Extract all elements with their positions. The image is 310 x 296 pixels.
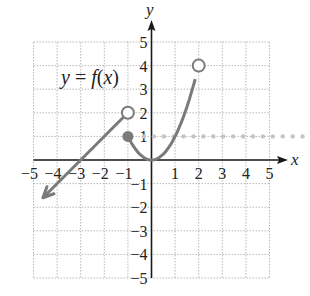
closed-dot-marker [122,131,133,142]
dotted-line-dot [142,134,146,138]
axes [34,20,289,278]
y-axis-label: y [144,0,154,19]
x-tick-label: 5 [266,165,274,182]
y-tick-label: 5 [140,34,148,51]
dotted-line-dot [261,134,265,138]
dotted-line-dot [191,134,195,138]
dotted-line-dot [281,134,285,138]
dotted-line-dot [290,134,294,138]
function-graph: −5−4−3−2−11234554321−1−2−3−4−5 y = f(x) … [0,0,310,296]
x-tick-label: −2 [92,165,109,182]
dotted-line-dot [201,134,205,138]
dotted-line-dot [211,134,215,138]
dotted-line-dot [152,134,156,138]
y-tick-label: −5 [130,270,147,287]
dotted-line-dot [231,134,235,138]
open-circle-marker [122,107,134,119]
function-annotation: y = f(x) [59,66,119,89]
dotted-line-dot [271,134,275,138]
dotted-line-dot [221,134,225,138]
dotted-line-dot [251,134,255,138]
parabola-curve [128,79,195,160]
y-tick-label: −1 [130,176,147,193]
y-tick-label: −4 [130,246,147,263]
open-circle-marker [193,60,205,72]
dotted-line-dot [300,134,304,138]
x-tick-label: 4 [242,165,250,182]
dotted-line-dot [162,134,166,138]
y-tick-label: −3 [130,223,147,240]
x-tick-label: −5 [21,165,38,182]
x-tick-label: −3 [68,165,85,182]
y-tick-label: 2 [140,105,148,122]
x-tick-label: −4 [45,165,62,182]
dotted-line-dot [241,134,245,138]
dotted-line-dot [181,134,185,138]
x-tick-label: 3 [218,165,226,182]
x-tick-label: 1 [171,165,179,182]
x-tick-label: 2 [195,165,203,182]
y-tick-label: −2 [130,199,147,216]
x-axis-label: x [290,150,299,169]
y-tick-label: 4 [140,58,148,75]
y-tick-label: 3 [140,81,148,98]
ray-line [43,117,124,198]
